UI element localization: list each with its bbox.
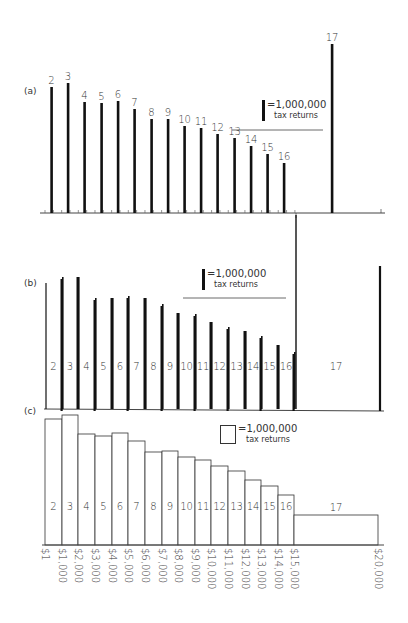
hist-bar-7 — [128, 441, 145, 545]
bar-8 — [150, 119, 153, 213]
divider-step-1 — [62, 277, 64, 409]
panel-c: 234567891011121314151617$1$1,000$2,000$3… — [40, 415, 384, 589]
hist-label-3: 3 — [67, 501, 73, 512]
hist-label-2: 2 — [50, 501, 56, 512]
bar-label-14: 14 — [245, 134, 258, 145]
bin-label-6: 6 — [117, 361, 123, 372]
bar-label-16: 16 — [278, 151, 291, 162]
bar-13 — [233, 138, 236, 213]
hist-bar-6 — [112, 433, 128, 545]
panel-a-label: (a) — [24, 86, 37, 96]
bar-9 — [167, 119, 170, 213]
hist-label-16: 16 — [280, 501, 293, 512]
hist-bar-3 — [62, 415, 78, 545]
panel-c-label: (c) — [24, 406, 36, 416]
bar-label-3: 3 — [65, 71, 71, 82]
bin-label-13: 13 — [230, 361, 243, 372]
bar-4 — [83, 102, 86, 213]
hist-label-5: 5 — [100, 501, 106, 512]
bar-label-12: 12 — [211, 122, 224, 133]
hist-label-12: 12 — [213, 501, 226, 512]
x-tick-label: $7,000 — [157, 548, 168, 583]
hist-bar-2 — [45, 419, 62, 545]
divider-step-7 — [162, 304, 164, 409]
x-tick-label: $3,000 — [90, 548, 101, 583]
bar-7 — [133, 109, 136, 213]
legend-value: =1,000,000 — [238, 423, 297, 434]
hist-label-13: 13 — [230, 501, 243, 512]
legend-unit: tax returns — [274, 111, 318, 120]
x-tick-label: $1 — [40, 548, 51, 561]
bin-label-3: 3 — [67, 361, 73, 372]
x-tick-label: $13,000 — [256, 548, 267, 589]
x-tick-label: $15,000 — [289, 548, 300, 589]
bin-label-17: 17 — [330, 361, 343, 372]
hist-bar-9 — [162, 451, 178, 545]
divider-step-2 — [78, 277, 80, 409]
hist-label-10: 10 — [180, 501, 193, 512]
divider-step-14 — [278, 345, 280, 409]
hist-bar-17 — [294, 515, 378, 545]
bar-label-7: 7 — [131, 97, 137, 108]
bar-16 — [283, 163, 286, 213]
bin-label-9: 9 — [167, 361, 173, 372]
bar-label-5: 5 — [98, 91, 104, 102]
legend-unit: tax returns — [246, 435, 290, 444]
bar-12 — [216, 134, 219, 213]
bar-3 — [67, 83, 70, 213]
bar-11 — [200, 128, 203, 213]
legend-unit: tax returns — [214, 280, 258, 289]
legend-box-icon — [220, 425, 236, 444]
hist-bar-4 — [78, 434, 95, 545]
bar-label-15: 15 — [261, 142, 274, 153]
x-tick-label: $20,000 — [373, 548, 384, 589]
x-tick-label: $8,000 — [173, 548, 184, 583]
bin-label-10: 10 — [180, 361, 193, 372]
legend-bar-icon — [262, 100, 265, 121]
x-tick-label: $4,000 — [107, 548, 118, 583]
bar-label-11: 11 — [195, 116, 208, 127]
bin-label-2: 2 — [50, 361, 56, 372]
hist-label-15: 15 — [263, 501, 276, 512]
x-tick-label: $5,000 — [123, 548, 134, 583]
hist-bar-5 — [95, 436, 112, 545]
legend-bar-icon — [202, 269, 205, 290]
bar-label-17: 17 — [326, 32, 339, 43]
x-tick-label: $12,000 — [240, 548, 251, 589]
bar-2 — [50, 87, 53, 213]
bin-label-5: 5 — [100, 361, 106, 372]
bar-15 — [266, 154, 269, 213]
income-distribution-chart: 234567891011121314151617 234567891011121… — [0, 0, 408, 623]
hist-label-6: 6 — [117, 501, 123, 512]
divider-step-6 — [145, 298, 147, 409]
divider-step-13 — [261, 336, 263, 409]
x-tick-label: $11,000 — [223, 548, 234, 589]
x-tick-label: $10,000 — [206, 548, 217, 589]
x-tick-label: $14,000 — [273, 548, 284, 589]
legend-value: =1,000,000 — [207, 268, 266, 279]
bar-label-10: 10 — [178, 114, 191, 125]
hist-label-17: 17 — [330, 502, 343, 513]
x-tick-label: $2,000 — [73, 548, 84, 583]
x-tick-label: $1,000 — [57, 548, 68, 583]
panel-b: 234567891011121314151617 — [44, 215, 384, 411]
bar-label-8: 8 — [148, 107, 154, 118]
hist-bar-14 — [245, 480, 261, 545]
x-tick-label: $6,000 — [140, 548, 151, 583]
panel-b-label: (b) — [24, 278, 37, 288]
bin-label-7: 7 — [133, 361, 139, 372]
bin-label-15: 15 — [263, 361, 276, 372]
hist-bar-8 — [145, 452, 162, 545]
divider-step-3 — [95, 298, 97, 409]
bar-17 — [331, 44, 334, 213]
bin-label-8: 8 — [150, 361, 156, 372]
bin-label-16: 16 — [280, 361, 293, 372]
bar-5 — [100, 103, 103, 213]
bar-6 — [117, 101, 120, 213]
hist-bar-15 — [261, 486, 278, 545]
hist-label-9: 9 — [167, 501, 173, 512]
bar-14 — [250, 146, 253, 213]
divider-step-4 — [112, 298, 114, 409]
hist-label-7: 7 — [133, 501, 139, 512]
bar-label-13: 13 — [228, 126, 241, 137]
